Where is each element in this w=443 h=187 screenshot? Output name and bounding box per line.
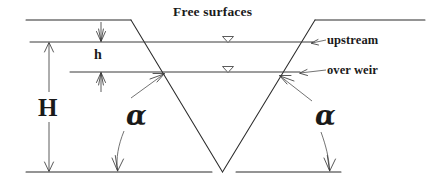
label-over-weir: over weir [327, 63, 378, 78]
label-upstream: upstream [327, 33, 378, 48]
label-free-surfaces: Free surfaces [173, 4, 252, 20]
label-head-over-weir-h: h [94, 47, 102, 63]
alpha-right-down-leader-line [321, 132, 330, 170]
alpha-right-up-leader-line [280, 76, 312, 101]
free-surface-group [30, 37, 313, 73]
weir-diagram: Free surfaces upstream over weir H h α α [0, 0, 443, 187]
label-angle-alpha-right: α [315, 100, 336, 131]
notch-left-side-line [131, 20, 223, 172]
alpha-left-up-leader-line [131, 74, 164, 98]
weir-diagram-canvas [0, 0, 443, 187]
label-angle-alpha-left: α [126, 100, 147, 131]
notch-right-side-line [223, 20, 316, 172]
label-total-head-H: H [38, 94, 57, 122]
